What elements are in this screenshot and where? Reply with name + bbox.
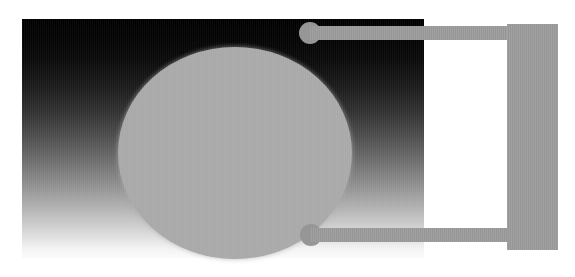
- caption-line-right: ··· ···· ····· ···· ··· ···· ··· ···· ··…: [302, 0, 574, 4]
- gradient-panel: [22, 19, 424, 258]
- figure-root: · ···· ···· ···· ······· ·· ····· ···· ·…: [0, 0, 575, 277]
- caption-strip: · ···· ···· ···· ······· ·· ····· ···· ·…: [0, 0, 575, 10]
- vertical-bar-right: [507, 24, 558, 250]
- caption-line-left: · ···· ···· ···· ······· ·· ····· ···· ·…: [1, 0, 293, 4]
